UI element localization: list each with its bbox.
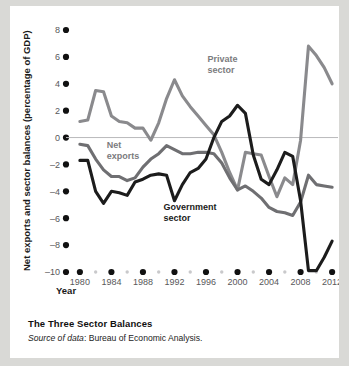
x-tick-label: 1992: [164, 277, 184, 287]
x-minor-tick-dot: [252, 270, 255, 273]
x-tick-dot: [266, 269, 272, 275]
annotation-line-2: sector: [163, 213, 191, 223]
y-tick-label: 0: [55, 133, 60, 143]
y-tick-label: 4: [55, 79, 60, 89]
x-tick-label: 2008: [291, 277, 311, 287]
y-tick-dot: [63, 108, 69, 114]
x-minor-tick-dot: [283, 270, 286, 273]
x-tick-dot: [171, 269, 177, 275]
x-tick-dot: [140, 269, 146, 275]
annotation-line-1: Government: [163, 202, 216, 212]
y-tick-dot: [63, 161, 69, 167]
x-tick-dot: [234, 269, 240, 275]
annotation-net-exports: Netexports: [107, 140, 140, 161]
x-minor-tick-dot: [125, 270, 128, 273]
y-tick-dot: [63, 81, 69, 87]
x-axis-ticks: 198019841988199219962000200420082012: [70, 269, 339, 287]
x-tick-label: 2012: [322, 277, 339, 287]
y-axis-title: Net exports and sector balances (percent…: [21, 30, 32, 271]
y-tick-dot: [63, 27, 69, 33]
x-tick-dot: [297, 269, 303, 275]
annotation-line-2: exports: [107, 151, 140, 161]
y-tick-label: 2: [55, 106, 60, 116]
annotation-government-sector: Governmentsector: [163, 202, 216, 223]
x-tick-label: 1984: [101, 277, 121, 287]
y-tick-label: –6: [50, 214, 60, 224]
x-tick-label: 2004: [259, 277, 279, 287]
three-sector-balances-chart: Net exports and sector balances (percent…: [10, 6, 339, 296]
y-axis-title-text: Net exports and sector balances (percent…: [21, 30, 32, 271]
y-tick-label: –4: [50, 187, 60, 197]
x-tick-label: 2000: [228, 277, 248, 287]
x-tick-dot: [329, 269, 335, 275]
figure-caption: The Three Sector Balances Source of data…: [28, 318, 328, 343]
x-tick-label: 1996: [196, 277, 216, 287]
y-tick-label: –8: [50, 240, 60, 250]
y-tick-dot: [63, 188, 69, 194]
x-tick-dot: [203, 269, 209, 275]
annotation-private-sector: Privatesector: [208, 54, 238, 74]
y-tick-dot: [63, 54, 69, 60]
x-axis-title-text: Year: [56, 285, 76, 296]
y-tick-label: –10: [45, 267, 60, 277]
y-axis-ticks: 86420–2–4–6–8–10: [45, 25, 69, 277]
annotation-line-1: Private: [208, 54, 238, 64]
x-minor-tick-dot: [189, 270, 192, 273]
series-line-private-sector: [80, 46, 332, 197]
y-tick-label: –2: [50, 160, 60, 170]
figure-card: Net exports and sector balances (percent…: [10, 6, 339, 358]
caption-source-lead: Source of data: [28, 333, 84, 343]
y-tick-label: 8: [55, 25, 60, 35]
y-tick-dot: [63, 242, 69, 248]
x-tick-label: 1988: [133, 277, 153, 287]
x-tick-dot: [77, 269, 83, 275]
caption-source-rest: : Bureau of Economic Analysis.: [84, 333, 202, 343]
annotation-line-2: sector: [208, 65, 236, 75]
chart-plot-area: Net exports and sector balances (percent…: [10, 6, 339, 296]
series-line-government-sector: [80, 105, 332, 270]
x-axis-title: Year: [56, 285, 76, 296]
x-minor-tick-dot: [157, 270, 160, 273]
x-minor-tick-dot: [220, 270, 223, 273]
x-minor-tick-dot: [94, 270, 97, 273]
annotation-line-1: Net: [107, 140, 122, 150]
caption-title: The Three Sector Balances: [28, 318, 328, 329]
y-tick-dot: [63, 215, 69, 221]
x-tick-dot: [108, 269, 114, 275]
caption-source: Source of data: Bureau of Economic Analy…: [28, 333, 328, 343]
y-tick-dot: [63, 269, 69, 275]
y-tick-label: 6: [55, 52, 60, 62]
